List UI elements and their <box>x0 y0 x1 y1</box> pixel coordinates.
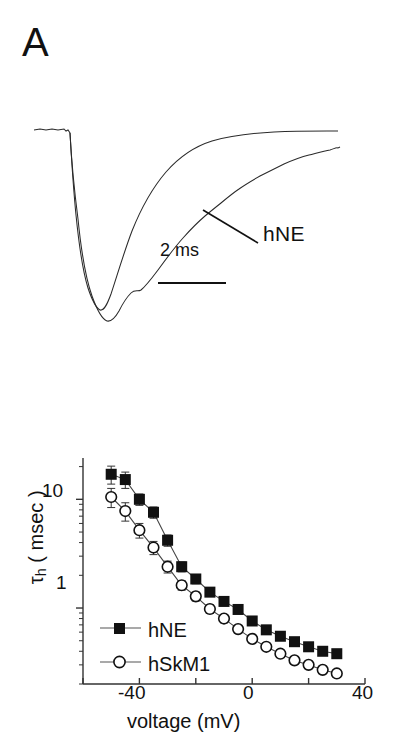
y-axis-title-subscript: h <box>33 568 49 576</box>
legend-label-hskm1: hSkM1 <box>148 653 210 676</box>
figure-root: A hNE 2 ms B <box>0 0 397 745</box>
series-hne <box>106 466 343 659</box>
legend-hskm1-marker <box>114 656 125 667</box>
data-point-square <box>176 561 187 572</box>
data-point-square <box>331 648 342 659</box>
data-point-square <box>162 535 173 546</box>
data-point-square <box>247 615 258 626</box>
data-point-square <box>317 646 328 657</box>
data-point-square <box>289 636 300 647</box>
data-point-square <box>261 624 272 635</box>
data-point-square <box>190 573 201 584</box>
data-point-square <box>275 631 286 642</box>
data-point-square <box>303 641 314 652</box>
hne-leader-line <box>203 210 258 243</box>
panel-b: B 10 1 -40 0 40 voltage (mV) τh <box>0 370 397 745</box>
data-point-circle <box>332 668 343 679</box>
panel-a: A hNE 2 ms <box>0 0 397 370</box>
x-tick-label-40: 40 <box>352 682 373 704</box>
data-point-circle <box>134 525 145 536</box>
data-point-circle <box>148 542 159 553</box>
legend-markers <box>100 623 141 668</box>
x-axis-title: voltage (mV) <box>127 710 240 733</box>
series-line <box>111 497 337 674</box>
data-point-circle <box>176 580 187 591</box>
data-point-square <box>219 596 230 607</box>
legend-label-hne: hNE <box>148 619 187 642</box>
scalebar-label: 2 ms <box>160 240 199 261</box>
data-point-square <box>120 474 131 485</box>
data-point-circle <box>247 634 258 645</box>
y-axis-ticks <box>76 467 83 684</box>
panel-a-hne-label: hNE <box>263 222 305 246</box>
data-point-circle <box>162 561 173 572</box>
y-axis-title-units: ( msec ) <box>25 490 47 568</box>
data-point-circle <box>317 665 328 676</box>
x-tick-label-minus40: -40 <box>118 682 145 704</box>
y-tick-label-1: 1 <box>56 572 67 594</box>
data-point-circle <box>219 613 230 624</box>
data-point-square <box>106 469 117 480</box>
data-point-circle <box>289 655 300 666</box>
y-axis-title-tau: τ <box>25 576 47 584</box>
data-point-circle <box>120 506 131 517</box>
data-point-circle <box>233 624 244 635</box>
data-point-square <box>233 604 244 615</box>
data-point-circle <box>261 641 272 652</box>
data-point-circle <box>275 648 286 659</box>
panel-b-plot <box>0 370 397 745</box>
data-point-circle <box>303 660 314 671</box>
data-series-group <box>106 466 343 679</box>
data-point-circle <box>191 591 202 602</box>
panel-a-traces <box>0 0 397 370</box>
data-point-square <box>134 494 145 505</box>
data-point-square <box>204 587 215 598</box>
series-line <box>111 474 337 653</box>
data-point-circle <box>205 604 216 615</box>
data-point-circle <box>106 492 117 503</box>
y-axis-title: τh ( msec ) <box>25 452 50 622</box>
legend-hne-marker <box>114 623 125 634</box>
data-point-square <box>148 507 159 518</box>
x-tick-label-0: 0 <box>243 682 254 704</box>
